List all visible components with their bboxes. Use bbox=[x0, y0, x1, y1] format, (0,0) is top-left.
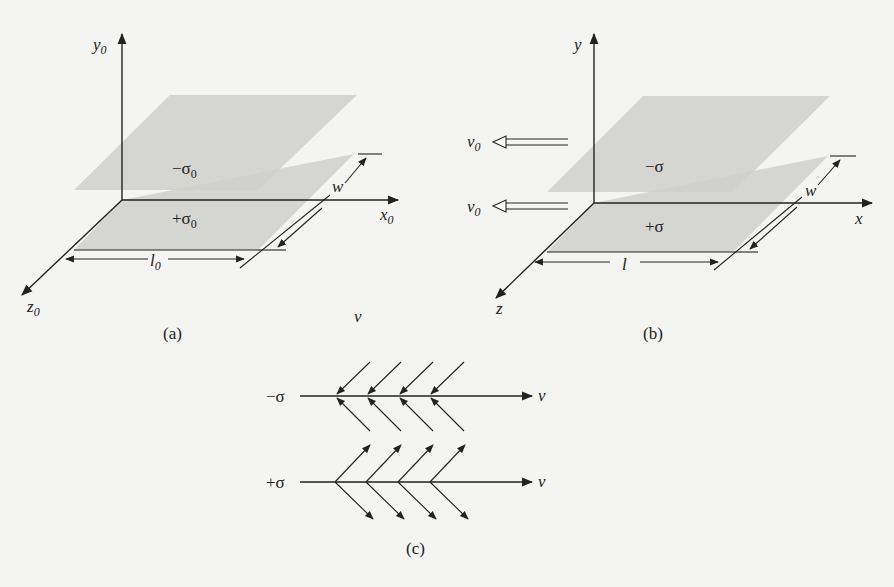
y-axis-label: y bbox=[572, 35, 582, 54]
velocity-label-positive: v bbox=[538, 472, 546, 491]
bottom-plate-charge: +σ bbox=[645, 217, 664, 236]
length-label: l0 bbox=[150, 251, 161, 273]
velocity-arrow-top bbox=[493, 136, 568, 148]
x-axis-label: x0 bbox=[379, 205, 394, 227]
z-axis-label: z0 bbox=[26, 297, 40, 319]
panel-b: v0 v0 y x z −σ +σ l w (b) bbox=[467, 34, 872, 343]
velocity-label-top: v0 bbox=[467, 132, 481, 154]
panel-a-caption: (a) bbox=[163, 324, 182, 343]
panel-b-caption: (b) bbox=[643, 324, 663, 343]
velocity-label-negative: v bbox=[538, 386, 546, 405]
positive-line-label: +σ bbox=[266, 473, 285, 492]
negative-line-label: −σ bbox=[266, 387, 285, 406]
stray-velocity-label: v bbox=[354, 307, 362, 326]
panel-a: y0 x0 z0 −σ0 +σ0 l0 w (a) bbox=[22, 34, 398, 343]
panel-c-caption: (c) bbox=[406, 539, 425, 558]
width-dimension bbox=[818, 160, 840, 185]
width-label: w bbox=[805, 181, 817, 200]
width-dimension bbox=[345, 158, 366, 183]
z-axis-label: z bbox=[495, 299, 503, 318]
figure-canvas: y0 x0 z0 −σ0 +σ0 l0 w (a) v bbox=[0, 0, 894, 587]
length-label: l bbox=[622, 255, 627, 274]
x-axis-label: x bbox=[854, 209, 863, 228]
top-plate-charge: −σ bbox=[645, 157, 664, 176]
velocity-label-bottom: v0 bbox=[467, 197, 481, 219]
width-label: w bbox=[332, 177, 344, 196]
y-axis-label: y0 bbox=[91, 35, 107, 57]
panel-c: −σ +σ v v (c) bbox=[266, 362, 546, 558]
velocity-arrow-bottom bbox=[493, 200, 568, 212]
